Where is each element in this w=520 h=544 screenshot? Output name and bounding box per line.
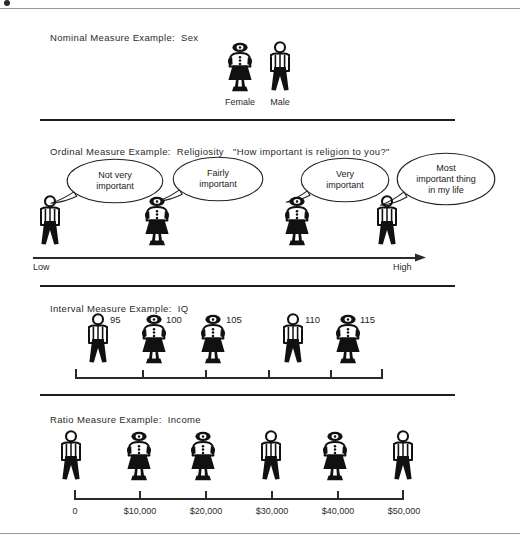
interval-title-value: IQ [178,303,189,314]
iq-value-label: 115 [360,314,375,325]
iq-value-label: 100 [166,314,182,325]
nominal-caption-male: Male [255,97,305,107]
ratio-tick-label: $50,000 [377,506,431,516]
figure-female [318,430,352,482]
ratio-tick-label: $20,000 [179,506,233,516]
bottom-rule [0,533,520,534]
figure-male [386,430,420,482]
nominal-section-title: Nominal Measure Example: Sex [38,21,198,54]
ordinal-title-prefix: Ordinal Measure Example: [50,146,171,157]
ratio-tick-label: $10,000 [113,506,167,516]
speech-bubble-text: Fairly important [172,156,264,202]
iq-value-label: 95 [110,314,121,325]
interval-axis-cap-left [75,369,77,378]
interval-axis-tick [330,370,332,378]
interval-axis-cap-right [381,369,383,378]
ratio-axis-tick [337,491,339,499]
figure-male [263,41,297,93]
measurement-levels-figure: Nominal Measure Example: Sex [0,0,520,544]
figure-male [370,195,404,247]
figure-male [54,430,88,482]
figure-male [33,195,67,247]
figure-female [223,41,257,93]
ratio-axis-cap-left [74,490,76,499]
ratio-tick-label: $30,000 [245,506,299,516]
ratio-axis-tick [271,491,273,499]
ratio-title-value: Income [168,414,201,425]
nominal-title-value: Sex [181,32,198,43]
divider-2 [40,285,455,287]
interval-axis-tick [268,370,270,378]
ratio-tick-label: $40,000 [311,506,365,516]
ratio-axis-line [74,498,404,500]
figure-female [186,430,220,482]
ratio-axis-tick [205,491,207,499]
speech-bubble-most-important-thing: Most important thing in my life [396,152,496,206]
ratio-title-prefix: Ratio Measure Example: [50,414,162,425]
ratio-axis-cap-right [402,490,404,499]
divider-1 [40,119,455,121]
figure-female [140,195,174,247]
top-rule [0,8,520,9]
nominal-title-prefix: Nominal Measure Example: [50,32,175,43]
speech-bubble-text: Most important thing in my life [396,152,496,206]
iq-value-label: 110 [305,314,320,325]
axis-arrowhead-icon [415,251,429,265]
interval-axis-tick [205,370,207,378]
figure-female [280,195,314,247]
ratio-axis-tick [139,491,141,499]
ordinal-axis-label-low: Low [33,262,50,272]
figure-female [196,313,230,365]
ratio-tick-label: 0 [50,506,100,516]
interval-axis-tick [142,370,144,378]
figure-male [254,430,288,482]
interval-axis-line [75,377,383,379]
iq-value-label: 105 [226,314,242,325]
corner-mark-icon [4,0,10,6]
ordinal-axis-label-high: High [393,262,412,272]
ordinal-axis-line [33,257,421,259]
speech-bubble-fairly-important: Fairly important [172,156,264,202]
divider-3 [40,394,455,396]
figure-female [122,430,156,482]
